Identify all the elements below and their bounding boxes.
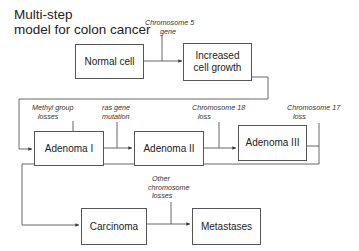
node-label: Adenoma I	[45, 143, 93, 155]
event-line: loss	[192, 113, 245, 122]
node-normal-cell: Normal cell	[75, 44, 144, 79]
event-other-chromosome-losses: Other chromosome losses	[148, 175, 190, 201]
node-carcinoma: Carcinoma	[81, 208, 147, 245]
node-increased-cell-growth: Increased cell growth	[183, 43, 252, 81]
node-adenoma-1: Adenoma I	[34, 131, 104, 166]
node-label-line-1: Increased	[196, 50, 240, 62]
node-metastases: Metastases	[192, 208, 261, 245]
node-label: Metastases	[201, 221, 252, 233]
node-label-line-2: cell growth	[194, 62, 242, 74]
node-label: Carcinoma	[90, 221, 138, 233]
node-adenoma-3: Adenoma III	[238, 125, 307, 161]
event-methyl-group-losses: Methyl group losses	[32, 104, 74, 121]
event-line: gene	[145, 28, 194, 37]
event-line: loss	[287, 113, 340, 122]
event-chromosome-18-loss: Chromosome 18 loss	[192, 104, 245, 121]
event-line: mutation	[102, 113, 130, 122]
node-adenoma-2: Adenoma II	[134, 131, 204, 166]
node-label: Adenoma III	[246, 137, 300, 149]
event-line: losses	[148, 192, 190, 201]
event-ras-gene-mutation: ras gene mutation	[102, 104, 130, 121]
event-chromosome-17-loss: Chromosome 17 loss	[287, 104, 340, 121]
event-chromosome-5-gene: Chromosome 5 gene	[145, 19, 194, 36]
node-label: Adenoma II	[143, 143, 194, 155]
event-line: losses	[32, 113, 74, 122]
node-label: Normal cell	[84, 56, 134, 68]
